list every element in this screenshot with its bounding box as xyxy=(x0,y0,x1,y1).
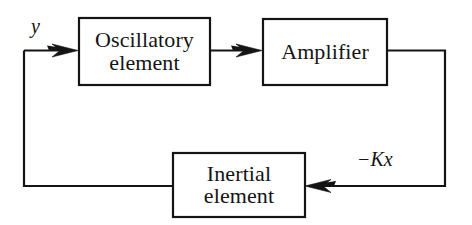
block-diagram: Oscillatory element Amplifier Inertial e… xyxy=(0,0,472,225)
block-inertial-element-label: Inertial element xyxy=(172,152,306,218)
block-label-line1: Amplifier xyxy=(281,41,369,63)
signal-label-input-y: y xyxy=(31,15,40,38)
block-oscillatory-element-label: Oscillatory element xyxy=(78,17,211,86)
block-label-line1: Inertial xyxy=(207,163,271,185)
block-label-line2: element xyxy=(109,52,179,74)
block-amplifier-label: Amplifier xyxy=(262,18,388,86)
block-label-line1: Oscillatory xyxy=(95,29,194,51)
signal-label-feedback-kx: −Kx xyxy=(357,148,393,171)
block-label-line2: element xyxy=(204,185,274,207)
